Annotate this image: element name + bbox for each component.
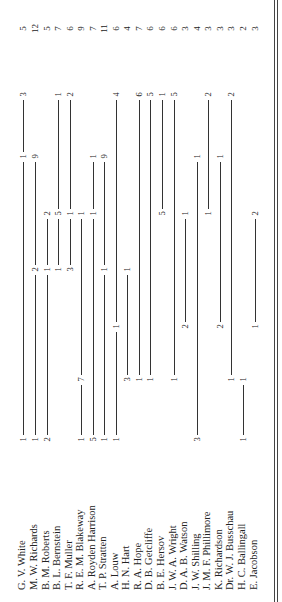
row-count: 7 <box>77 374 86 384</box>
row-total: 5 <box>19 23 28 35</box>
row-name: G. V. White <box>17 540 28 590</box>
row-count: 1 <box>239 434 248 444</box>
row-segment <box>208 100 209 209</box>
row-name: M. W. Richards <box>29 524 40 590</box>
row-segment <box>93 162 94 209</box>
row-count: 1 <box>123 264 132 274</box>
row-total: 6 <box>66 23 75 35</box>
row-segment <box>116 100 117 322</box>
row-segment <box>116 332 117 435</box>
row-segment <box>104 162 105 265</box>
row-count: 5 <box>89 434 98 444</box>
row-count: 5 <box>158 208 167 218</box>
row-count: 1 <box>251 321 260 331</box>
right-double-rule <box>274 0 275 602</box>
row-segment <box>47 219 48 265</box>
row-count: 1 <box>112 321 121 331</box>
row-segment <box>174 100 175 375</box>
row-segment <box>150 100 151 375</box>
row-count: 9 <box>31 151 40 161</box>
row-name: D. B. Getcliffe <box>144 528 155 590</box>
row-total: 7 <box>54 23 63 35</box>
row-count: 1 <box>204 208 213 218</box>
row-name: T. F. Muller <box>64 540 75 590</box>
row-count: 1 <box>43 264 52 274</box>
row-total: 5 <box>43 23 52 35</box>
row-segment <box>23 162 24 435</box>
row-segment <box>139 100 140 375</box>
right-double-rule <box>277 0 278 602</box>
row-segment <box>197 162 198 435</box>
row-segment <box>93 219 94 435</box>
row-name: J. M. F. Phillimore <box>202 511 213 590</box>
row-total: 3 <box>216 23 225 35</box>
row-name: B. E. Hersov <box>156 536 167 590</box>
row-count: 3 <box>66 264 75 274</box>
row-count: 1 <box>135 374 144 384</box>
row-total: 3 <box>181 23 190 35</box>
row-segment <box>23 100 24 152</box>
row-segment <box>127 275 128 375</box>
row-count: 1 <box>66 208 75 218</box>
row-count: 1 <box>100 434 109 444</box>
row-count: 1 <box>112 434 121 444</box>
row-total: 3 <box>227 23 236 35</box>
row-name: Dr. W. J. Busschau <box>225 511 236 590</box>
row-name: T. P. Stratten <box>98 537 109 590</box>
row-count: 1 <box>54 89 63 99</box>
row-count: 1 <box>89 151 98 161</box>
row-total: 3 <box>204 23 213 35</box>
row-segment <box>231 100 232 375</box>
row-name: A. Royden Harrison <box>87 505 98 590</box>
row-total: 7 <box>135 23 144 35</box>
row-count: 1 <box>146 374 155 384</box>
row-count: 2 <box>216 321 225 331</box>
row-segment <box>58 100 59 209</box>
row-count: 1 <box>216 151 225 161</box>
row-segment <box>255 219 256 322</box>
row-total: 6 <box>170 23 179 35</box>
row-count: 2 <box>43 208 52 218</box>
row-count: 1 <box>77 434 86 444</box>
row-segment <box>220 162 221 322</box>
row-segment <box>58 219 59 265</box>
row-count: 5 <box>54 208 63 218</box>
row-count: 1 <box>54 264 63 274</box>
row-segment <box>35 162 36 265</box>
row-segment <box>47 275 48 435</box>
row-segment <box>104 275 105 435</box>
row-name: J. W. Shilling <box>191 533 202 590</box>
row-count: 2 <box>204 89 213 99</box>
row-count: 5 <box>146 89 155 99</box>
row-count: 1 <box>89 208 98 218</box>
row-segment <box>243 385 244 435</box>
row-count: 2 <box>66 89 75 99</box>
row-count: 3 <box>193 434 202 444</box>
row-count: 1 <box>19 151 28 161</box>
row-segment <box>81 385 82 435</box>
row-total: 2 <box>239 23 248 35</box>
row-count: 1 <box>239 374 248 384</box>
row-segment <box>185 219 186 322</box>
row-count: 6 <box>135 89 144 99</box>
row-total: 6 <box>146 23 155 35</box>
row-count: 2 <box>227 89 236 99</box>
row-count: 1 <box>100 264 109 274</box>
row-count: 1 <box>31 434 40 444</box>
row-total: 3 <box>251 23 260 35</box>
row-segment <box>70 100 71 209</box>
row-name: A. Louw <box>110 553 121 590</box>
row-segment <box>162 100 163 209</box>
row-count: 1 <box>193 151 202 161</box>
row-count: 2 <box>31 264 40 274</box>
row-count: 2 <box>181 321 190 331</box>
row-total: 12 <box>31 23 40 35</box>
row-count: 1 <box>227 374 236 384</box>
row-total: 4 <box>193 23 202 35</box>
row-segment <box>70 219 71 265</box>
row-total: 6 <box>158 23 167 35</box>
row-total: 7 <box>89 23 98 35</box>
row-segment <box>35 275 36 435</box>
row-segment <box>81 219 82 375</box>
row-name: H. C. Ballingall <box>237 524 248 591</box>
